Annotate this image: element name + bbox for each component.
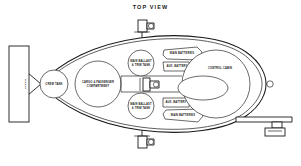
diagram-svg: STERN CREW TANK CARGO & PASSENGER COMPAR…	[0, 0, 301, 166]
ballast-lower-label-2: & TRIM TANK	[132, 106, 151, 110]
thruster-bottom	[134, 130, 154, 148]
crew-tank: CREW TANK	[40, 70, 68, 98]
ballast-lower-label-1: MAIN BALLAST	[130, 102, 152, 106]
aux-battery-upper-label: AUX. BATTERY	[167, 64, 188, 68]
diagram-canvas: TOP VIEW STERN CREW TANK CARGO & PASSENG…	[0, 0, 301, 166]
bow-port	[266, 81, 273, 87]
stern-assembly: STERN	[9, 46, 41, 122]
ballast-tank-lower: MAIN BALLAST & TRIM TANK	[128, 93, 154, 119]
ballast-upper-label-1: MAIN BALLAST	[130, 59, 152, 63]
cargo-compartment: CARGO & PASSENGER COMPARTMENT	[75, 61, 121, 107]
thruster-top	[134, 20, 154, 38]
aux-battery-lower-label: AUX. BATTERY	[166, 100, 187, 104]
crew-tank-label: CREW TANK	[45, 82, 62, 86]
stern-panel-label: STERN	[24, 79, 27, 89]
ballast-upper-label-2: & TRIM TANK	[132, 63, 151, 67]
cargo-compartment-label-1: CARGO & PASSENGER	[82, 80, 114, 84]
viewport-dome	[178, 76, 228, 100]
main-batteries-lower-label: MAIN BATTERIES	[171, 113, 195, 117]
main-batteries-upper-label: MAIN BATTERIES	[170, 51, 194, 55]
manipulator-boom	[236, 117, 292, 136]
control-cabin-label: CONTROL CABIN	[208, 66, 232, 70]
ballast-tank-upper: MAIN BALLAST & TRIM TANK	[128, 50, 154, 76]
cargo-compartment-label-2: COMPARTMENT	[87, 84, 110, 88]
